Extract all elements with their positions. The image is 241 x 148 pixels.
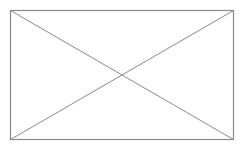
placeholder-cross-icon <box>0 0 241 148</box>
image-placeholder <box>0 0 241 148</box>
